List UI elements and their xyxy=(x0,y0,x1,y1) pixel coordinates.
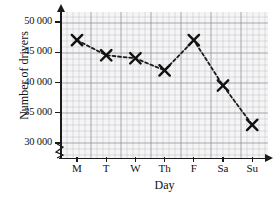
x-axis-arrow-icon xyxy=(265,154,273,162)
y-axis-tick xyxy=(55,112,61,113)
y-axis-tick-label: 30 000 xyxy=(24,137,52,147)
axis-break-icon xyxy=(54,143,68,159)
x-axis-tick-label: T xyxy=(103,162,110,174)
y-axis-tick xyxy=(55,82,61,83)
y-axis-tick-label: 50 000 xyxy=(24,16,52,26)
x-axis-tick-label: W xyxy=(130,162,140,174)
x-axis-tick-label: M xyxy=(72,162,82,174)
plot-background-shade xyxy=(61,12,268,158)
x-axis-tick-label: F xyxy=(191,162,197,174)
plot-area xyxy=(61,12,268,158)
y-axis-arrow-icon xyxy=(57,4,65,12)
y-axis-tick-label: 45 000 xyxy=(24,46,52,56)
x-axis-tick-label: Sa xyxy=(218,162,229,174)
x-axis-tick-label: Th xyxy=(158,162,170,174)
y-axis-tick xyxy=(55,52,61,53)
y-axis-tick-label: 35 000 xyxy=(24,107,52,117)
y-axis-tick xyxy=(55,21,61,22)
chart-container: M: 47000T: 44500W: 44000Th: 42000F: 4700… xyxy=(0,0,274,197)
x-axis-title: Day xyxy=(61,178,268,193)
y-axis-tick-label: 40 000 xyxy=(24,77,52,87)
y-axis-line xyxy=(60,10,62,159)
x-axis-tick-label: Su xyxy=(246,162,258,174)
y-axis-tick xyxy=(55,142,61,143)
